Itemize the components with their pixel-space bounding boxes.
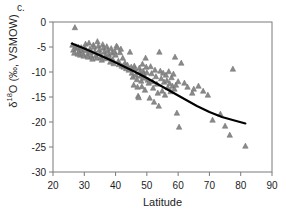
data-point-triangle [140, 61, 146, 66]
x-tick-label: 30 [79, 180, 91, 191]
x-tick-label: 20 [47, 180, 59, 191]
data-point-triangle [172, 54, 178, 59]
x-axis-ticks: 2030405060708090 [47, 172, 278, 191]
data-point-triangle [159, 88, 165, 93]
data-point-triangle [72, 25, 78, 30]
data-point-triangle [176, 124, 182, 129]
x-tick-label: 50 [141, 180, 153, 191]
data-point-triangle [139, 84, 145, 89]
data-point-triangle [147, 95, 153, 100]
y-tick-label: 0 [40, 17, 46, 28]
x-tick-label: 90 [266, 180, 278, 191]
y-tick-label: -15 [32, 92, 47, 103]
x-tick-label: 70 [204, 180, 216, 191]
y-tick-label: -25 [32, 142, 47, 153]
data-point-triangle [153, 74, 159, 79]
x-tick-label: 80 [235, 180, 247, 191]
x-tick-label: 60 [173, 180, 185, 191]
y-tick-label: -30 [32, 167, 47, 178]
figure-panel-c: c. δ18O (‰, VSMOW) Latitude 203040506070… [0, 0, 286, 215]
data-point-triangle [148, 64, 154, 69]
data-point-triangle [158, 76, 164, 81]
data-point-triangle [95, 39, 101, 44]
x-tick-label: 40 [110, 180, 122, 191]
data-point-triangle [127, 49, 133, 54]
y-tick-label: -10 [32, 67, 47, 78]
data-point-triangle [179, 60, 185, 65]
data-point-triangle [222, 123, 228, 128]
data-point-triangle [227, 132, 233, 137]
y-tick-label: -5 [37, 42, 46, 53]
data-point-triangle [200, 88, 206, 93]
data-point-triangle [175, 79, 181, 84]
data-point-group [70, 25, 249, 149]
data-point-triangle [157, 49, 163, 54]
y-tick-label: -20 [32, 117, 47, 128]
data-point-triangle [131, 82, 137, 87]
data-point-triangle [182, 80, 188, 85]
data-point-triangle [210, 117, 216, 122]
data-point-triangle [174, 110, 180, 115]
trend-line [72, 44, 246, 124]
data-point-triangle [243, 143, 249, 148]
data-point-triangle [230, 66, 236, 71]
data-point-triangle [120, 55, 126, 60]
data-point-triangle [143, 55, 149, 60]
data-point-triangle [196, 83, 202, 88]
y-axis-ticks: 0-5-10-15-20-25-30 [32, 17, 53, 178]
data-point-triangle [166, 69, 172, 74]
scatter-plot: 2030405060708090 0-5-10-15-20-25-30 [0, 0, 286, 215]
data-point-triangle [86, 40, 92, 45]
data-point-triangle [191, 86, 197, 91]
